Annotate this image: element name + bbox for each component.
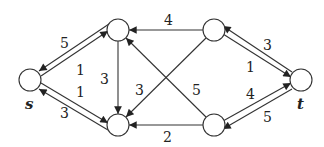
weight-b-s: 3 [60,105,69,121]
weight-d-t: 4 [246,86,255,102]
node-s [19,69,41,91]
weight-c-a: 4 [164,12,173,28]
edge-d-t [223,83,291,121]
weight-c-t: 1 [246,59,255,75]
edge-s-b [41,83,108,123]
edge-t-d [223,89,292,129]
node-label-s: s [25,95,34,113]
weight-d-b: 2 [163,129,172,145]
edge-c-t [223,34,291,77]
weight-s-b: 1 [76,84,85,100]
weight-a-s: 5 [60,35,69,51]
weight-c-b: 3 [135,82,144,98]
node-t [290,69,312,91]
node-label-t: t [297,95,304,113]
node-c [203,19,225,41]
edge-b-s [39,89,108,130]
weight-d-a: 5 [192,82,201,98]
node-a [107,19,129,41]
edge-a-s [39,24,109,71]
node-d [203,114,225,136]
weight-t-c: 3 [263,37,272,53]
node-b [107,114,129,136]
edge-t-c [223,26,292,72]
weight-a-b: 3 [100,71,109,87]
weight-s-a: 1 [76,62,85,78]
flow-network-diagram: s t 5 1 1 3 3 4 3 5 2 3 1 4 5 [0,0,324,147]
weight-t-d: 5 [263,109,272,125]
edge-s-a [41,31,108,76]
